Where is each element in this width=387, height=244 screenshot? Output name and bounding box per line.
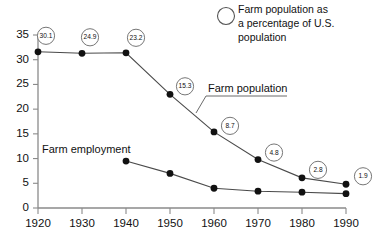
data-point [167, 91, 174, 98]
data-point [211, 128, 218, 135]
chart-legend: Farm population as a percentage of U.S. … [218, 3, 335, 43]
x-tick-label: 1920 [25, 217, 51, 229]
data-point [211, 185, 218, 192]
data-point [123, 49, 130, 56]
x-tick-label: 1970 [245, 217, 271, 229]
callout-value: 4.8 [269, 149, 278, 156]
data-point [255, 156, 262, 163]
y-axis: 05101520253035 [16, 28, 38, 213]
y-tick-label: 30 [16, 53, 29, 65]
data-point [123, 158, 130, 165]
y-tick-label: 10 [16, 152, 29, 164]
data-point [299, 189, 306, 196]
x-axis: 19201930194019501960197019801990 [25, 208, 359, 229]
data-point [255, 188, 262, 195]
farm-employment-label: Farm employment [42, 143, 131, 155]
callout-value: 24.9 [84, 33, 97, 40]
legend-line-1: Farm population as [238, 3, 328, 15]
farm-population-chart: 05101520253035 1920193019401950196019701… [0, 0, 387, 244]
legend-line-2: a percentage of U.S. [238, 17, 334, 29]
series-line-0 [38, 52, 346, 184]
x-tick-label: 1940 [113, 217, 139, 229]
callout-value: 2.8 [313, 166, 322, 173]
farm-population-label: Farm population [208, 82, 288, 94]
callout-value: 15.3 [179, 82, 192, 89]
series-lines [38, 52, 346, 194]
label-leader-lines [196, 96, 287, 113]
data-point [79, 50, 86, 57]
callout-value: 1.9 [358, 172, 367, 179]
x-tick-label: 1950 [157, 217, 183, 229]
callout-value: 30.1 [40, 32, 53, 39]
data-point [299, 174, 306, 181]
data-point [35, 48, 42, 55]
percentage-callouts: 30.124.923.215.38.74.82.81.9 [37, 27, 371, 185]
x-tick-label: 1990 [333, 217, 359, 229]
x-tick-label: 1960 [201, 217, 227, 229]
chart-canvas: 05101520253035 1920193019401950196019701… [0, 0, 387, 244]
legend-line-3: population [238, 31, 287, 43]
legend-open-circle-icon [218, 8, 235, 25]
callout-value: 8.7 [225, 122, 234, 129]
y-tick-label: 15 [16, 127, 29, 139]
y-tick-label: 5 [23, 176, 29, 188]
series-points [35, 48, 350, 197]
y-tick-label: 0 [23, 201, 29, 213]
data-point [343, 181, 350, 188]
y-tick-label: 20 [16, 102, 29, 114]
data-point [343, 190, 350, 197]
data-point [167, 170, 174, 177]
y-tick-label: 25 [16, 77, 29, 89]
callout-value: 23.2 [130, 34, 143, 41]
x-tick-label: 1980 [289, 217, 315, 229]
x-tick-label: 1930 [69, 217, 95, 229]
y-tick-label: 35 [16, 28, 29, 40]
farm-population-leader [196, 96, 287, 113]
